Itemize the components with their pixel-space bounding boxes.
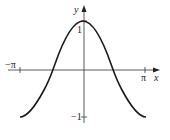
neg-pi-label: −π	[5, 59, 16, 70]
cosine-chart: −π π x y 1 −1	[0, 0, 170, 140]
y-axis-label: y	[73, 4, 79, 15]
one-label: 1	[77, 24, 82, 35]
neg-one-label: −1	[71, 111, 82, 122]
y-axis-arrow-icon	[82, 5, 87, 12]
pi-label: π	[141, 72, 146, 83]
x-axis-label: x	[153, 72, 159, 83]
cosine-curve	[20, 21, 146, 117]
